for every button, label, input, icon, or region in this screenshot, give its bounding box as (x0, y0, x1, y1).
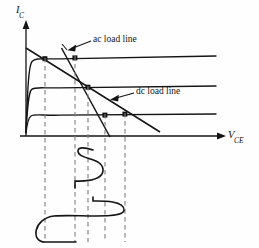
y-axis-label: IC (16, 5, 25, 18)
y-axis-label-subscript: C (19, 11, 24, 20)
x-axis-label-subscript: CE (234, 136, 244, 145)
ic-curve-mid (26, 86, 216, 132)
dc-output-waveform (36, 197, 124, 242)
load-line-figure: IC VCE ac load line dc load line (0, 0, 259, 248)
ac-load-line (62, 48, 111, 137)
ac-output-waveform (75, 148, 103, 188)
x-axis-label: VCE (228, 130, 244, 143)
y-axis-arrowhead (23, 20, 30, 29)
dc-load-line-label: dc load line (136, 87, 180, 97)
projection-lines (45, 56, 125, 242)
characteristic-curves (26, 56, 216, 133)
dc-load-line-arrowhead (110, 95, 119, 102)
ac-load-line-label: ac load line (93, 35, 137, 45)
ic-curve-low (26, 114, 216, 133)
ic-curve-high (26, 56, 216, 132)
ac-load-line-arrowhead (68, 45, 77, 52)
x-axis-arrowhead (217, 133, 226, 140)
